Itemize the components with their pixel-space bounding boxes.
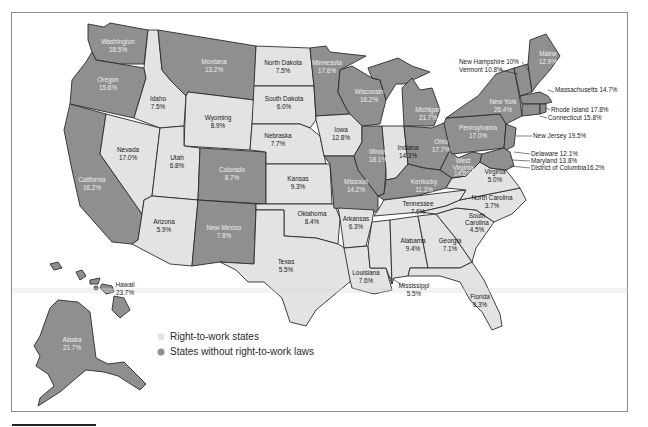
callout-massachusetts: Massachusetts 14.7% xyxy=(555,86,618,93)
label-ohio: Ohio17.7% xyxy=(432,138,450,153)
label-oregon: Oregon15.6% xyxy=(97,76,119,91)
label-texas: Texas5.5% xyxy=(278,258,295,273)
label-nevada: Nevada17.0% xyxy=(117,146,139,161)
leader-massachusetts xyxy=(548,90,554,92)
label-florida: Florida6.3% xyxy=(470,293,490,308)
label-alaska: Alaska21.7% xyxy=(62,336,82,351)
callout-dc: District of Columbia16.2% xyxy=(531,164,605,171)
state-rhode-island xyxy=(540,104,546,114)
scan-band xyxy=(12,288,628,293)
legend-label-right-to-work: Right-to-work states xyxy=(170,331,259,342)
callout-connecticut: Connecticut 15.8% xyxy=(548,114,602,121)
label-utah: Utah6.8% xyxy=(170,154,185,169)
state-hawaii-big-island xyxy=(112,296,130,318)
label-missouri: Missouri14.2% xyxy=(344,178,368,193)
state-new-jersey xyxy=(504,124,516,150)
label-idaho: Idaho7.5% xyxy=(150,95,166,110)
legend-label-non-right-to-work: States without right-to-work laws xyxy=(170,346,314,357)
leader-connecticut xyxy=(540,116,547,118)
label-indiana: Indiana14.3% xyxy=(398,144,419,159)
callout-vermont: Vermont 10.8% xyxy=(459,66,503,73)
label-maine: Maine12.9% xyxy=(539,50,557,65)
legend-swatch-non-right-to-work xyxy=(158,349,165,356)
state-alaska xyxy=(34,300,146,406)
state-hawaii-kauai xyxy=(50,262,62,270)
label-iowa: Iowa12.8% xyxy=(332,126,350,141)
callout-new-jersey: New Jersey 19.5% xyxy=(533,132,587,140)
callout-delaware: Delaware 12.1% xyxy=(531,150,578,157)
leader-rhode-island xyxy=(546,108,550,110)
callout-new-hampshire: New Hampshire 10% xyxy=(459,58,519,66)
leader-maryland xyxy=(512,160,530,161)
state-connecticut xyxy=(522,104,540,116)
legend-swatch-right-to-work xyxy=(158,334,165,341)
us-union-membership-map: Washington18.5% Oregon15.6% California16… xyxy=(0,0,648,427)
state-hawaii-molokai xyxy=(90,278,100,284)
state-new-york xyxy=(446,68,522,124)
leader-delaware xyxy=(514,152,530,154)
callout-rhode-island: Rhode Island 17.8% xyxy=(551,106,609,113)
legend: Right-to-work states States without righ… xyxy=(158,331,314,357)
label-hawaii: Hawaii23.7% xyxy=(115,281,134,296)
state-hawaii-oahu xyxy=(76,270,86,280)
label-illinois: Illinois18.1% xyxy=(369,148,387,163)
